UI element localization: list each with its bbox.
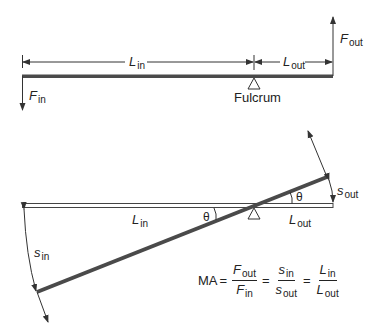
top-lever-bar [22,75,333,79]
eq-sign-1: = [220,273,228,288]
f-in-sub: in [245,288,253,299]
motion-arrow-in [37,292,48,322]
label-s-out: sout [337,184,358,200]
f-in-main: F [236,282,244,297]
s-out-arc [329,180,333,202]
label-l-out-top: Lout [283,55,305,71]
eq-sign-2: = [262,273,270,288]
mechanical-advantage-equation: MA = Fout Fin = sin sout = Lin Lout [198,262,343,299]
label-l-in-top-main: L [129,54,136,69]
label-s-in: sin [34,246,49,262]
label-s-out-sub: out [345,189,359,200]
label-theta-right: θ [296,191,303,203]
label-f-out-sub: out [349,37,363,48]
label-l-out-bottom-main: L [289,212,296,227]
label-f-in-sub: in [38,94,46,105]
label-l-in-top-sub: in [137,60,145,71]
theta-arc-left [214,208,216,220]
fraction-force: Fout Fin [232,262,257,299]
eq-lhs: MA [198,273,218,288]
label-s-in-main: s [34,245,41,260]
f-out-main: F [233,262,241,277]
s-in-main: s [279,262,286,277]
label-l-out-bottom-sub: out [297,218,311,229]
label-l-out-top-main: L [283,54,290,69]
s-out-main: s [276,282,283,297]
l-in-sub: in [328,268,336,279]
fraction-force-num: Fout [232,262,257,281]
label-l-in-bottom-main: L [132,212,139,227]
label-f-in-main: F [29,88,37,103]
fraction-length: Lin Lout [316,262,340,299]
fraction-force-den: Fin [235,281,254,299]
label-theta-left: θ [203,211,210,223]
l-out-main: L [317,282,324,297]
eq-sign-3: = [303,273,311,288]
label-fulcrum: Fulcrum [234,91,281,104]
s-out-sub: out [283,288,297,299]
label-l-in-top: Lin [129,55,145,71]
label-s-out-main: s [337,183,344,198]
f-out-sub: out [242,268,256,279]
fraction-length-den: Lout [316,281,340,299]
label-l-in-bottom: Lin [132,213,148,229]
label-l-in-bottom-sub: in [140,218,148,229]
l-in-main: L [320,262,327,277]
l-out-sub: out [325,288,339,299]
label-l-out-top-sub: out [291,60,305,71]
label-f-out: Fout [340,32,363,48]
fulcrum-triangle-top [248,78,260,89]
label-f-out-main: F [340,31,348,46]
fraction-distance: sin sout [275,262,298,299]
fraction-distance-den: sout [275,281,298,299]
theta-arc-right [290,192,292,204]
label-f-in: Fin [29,89,46,105]
motion-arrow-out [308,131,327,177]
reference-beam [23,204,334,208]
label-s-in-sub: in [42,251,50,262]
s-in-sub: in [286,268,294,279]
fraction-distance-num: sin [278,262,295,281]
label-l-out-bottom: Lout [289,213,311,229]
fraction-length-num: Lin [319,262,337,281]
